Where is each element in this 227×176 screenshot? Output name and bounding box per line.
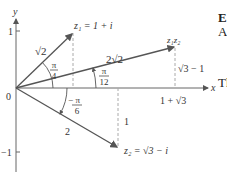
side-text-line: A <box>218 24 227 40</box>
product-height-label: √3 − 1 <box>178 63 204 74</box>
x-axis-label: x <box>210 82 216 93</box>
origin-label: 0 <box>6 91 11 102</box>
y-tick-neg1-label: −1 <box>1 147 12 158</box>
side-text-para: Th <box>218 75 227 91</box>
z2-modulus-label: 2 <box>65 126 70 137</box>
y-tick-1-label: 1 <box>8 26 13 37</box>
complex-multiplication-diagram: y x 0 1 −1 z₁ = 1 + i z₁z₂ z₂ = √3 − i √… <box>0 0 227 176</box>
z2-label: z₂ = √3 − i <box>123 145 168 156</box>
z1-modulus-label: √2 <box>35 45 47 57</box>
svg-text:6: 6 <box>75 106 80 116</box>
product-angle-arc <box>93 68 96 88</box>
z2-angle-label: − π 6 <box>68 95 82 116</box>
svg-text:12: 12 <box>100 77 109 87</box>
product-angle-label: π 12 <box>99 66 109 87</box>
svg-text:4: 4 <box>52 71 57 81</box>
z1-label: z₁ = 1 + i <box>73 20 113 31</box>
y-axis-label: y <box>12 6 18 17</box>
svg-text:π: π <box>102 66 107 76</box>
product-x-label: 1 + √3 <box>160 95 186 106</box>
svg-text:π: π <box>52 60 57 70</box>
product-label: z₁z₂ <box>166 35 180 45</box>
svg-text:− π: − π <box>68 95 80 105</box>
z2-angle-arc <box>60 88 67 114</box>
z1-vector <box>16 34 72 88</box>
product-modulus-label: 2√2 <box>106 53 123 65</box>
z2-depth-label: 1 <box>124 116 129 127</box>
